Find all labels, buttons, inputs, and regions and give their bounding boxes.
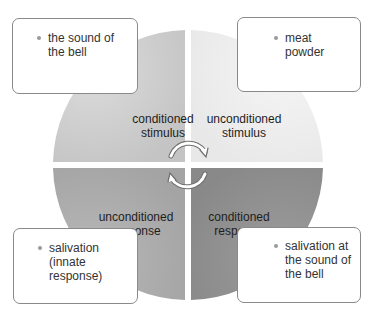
label-line: stimulus <box>194 126 294 140</box>
cycle-arrows-icon <box>168 143 208 187</box>
callout-bullet: salivation(innateresponse) <box>49 241 102 283</box>
callout-unconditioned-stimulus: meatpowder <box>237 17 361 92</box>
callout-bullet: the sound ofthe bell <box>48 31 114 59</box>
callout-text: the sound of <box>48 31 114 45</box>
callout-text: meat <box>285 31 312 45</box>
quadrant-label-unconditioned-stimulus: unconditioned stimulus <box>194 112 294 140</box>
callout-text: (innate <box>49 255 86 269</box>
callout-text: the bell <box>285 267 324 281</box>
classical-conditioning-diagram: conditioned stimulus unconditioned stimu… <box>0 0 375 318</box>
callout-text: the sound of <box>285 253 351 267</box>
label-line: unconditioned <box>93 210 179 224</box>
callout-bullet: salivation atthe sound ofthe bell <box>285 239 351 281</box>
callout-text: salivation <box>49 241 99 255</box>
callout-text: powder <box>285 45 324 59</box>
callout-text: salivation at <box>285 239 348 253</box>
callout-conditioned-response: salivation atthe sound ofthe bell <box>237 227 361 303</box>
callout-conditioned-stimulus: the sound ofthe bell <box>12 18 138 94</box>
callout-bullet: meatpowder <box>285 31 324 59</box>
callout-text: the bell <box>48 45 87 59</box>
callout-text: response) <box>49 269 102 283</box>
callout-unconditioned-response: salivation(innateresponse) <box>13 228 138 304</box>
label-line: conditioned <box>196 210 282 224</box>
label-line: unconditioned <box>194 112 294 126</box>
